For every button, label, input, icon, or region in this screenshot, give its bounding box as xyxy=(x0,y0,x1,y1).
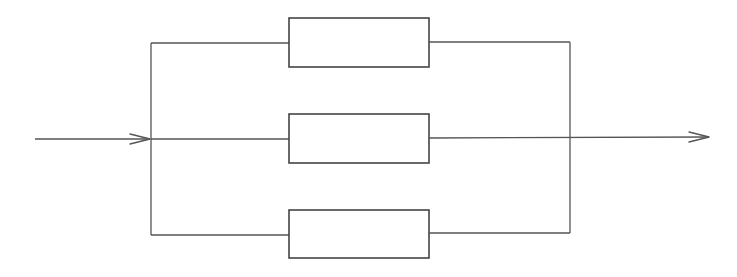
parallel-block-diagram xyxy=(0,0,737,277)
output-arrow xyxy=(429,132,709,142)
block-2 xyxy=(289,114,429,163)
block-1 xyxy=(289,18,429,67)
input-arrow xyxy=(35,134,150,144)
block-3 xyxy=(289,210,429,258)
output-line xyxy=(429,137,709,138)
